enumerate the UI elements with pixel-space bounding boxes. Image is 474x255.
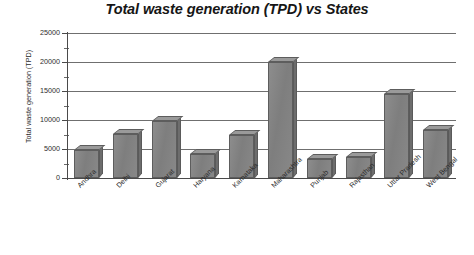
- x-axis-tick-labels: AndhraDelhiGujaratHaryanaKarnatakaMahara…: [0, 0, 474, 255]
- x-axis-tick-label: Maharashtra: [270, 156, 304, 190]
- x-axis-tick-label: Rajasthan: [348, 161, 376, 189]
- x-axis-tick-label: Delhi: [115, 173, 132, 190]
- x-axis-tick-label: Gujarat: [154, 168, 176, 190]
- x-axis-tick-label: Haryana: [192, 165, 217, 190]
- x-axis-tick-label: Andhra: [76, 168, 98, 190]
- x-axis-tick-label: Uttar Pradesh: [386, 153, 423, 190]
- x-axis-tick-label: Punjab: [309, 168, 330, 189]
- x-axis-tick-label: West Bengal: [425, 156, 459, 190]
- waste-generation-bar-chart: Total waste generation (TPD) vs States T…: [0, 0, 474, 255]
- x-axis-tick-label: Karnataka: [231, 161, 260, 190]
